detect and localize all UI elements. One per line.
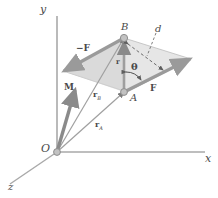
label-r-b-sub: B [97,95,101,101]
label-distance-d: d [155,24,161,34]
vector-diagram-figure: y x z O A B −F F M r rB rA d θ [0,0,218,198]
label-force-f: F [150,84,156,93]
label-vector-r-b: rB [93,90,101,101]
z-axis [10,152,57,184]
node-point-a [121,89,128,96]
label-moment-m: M [64,83,74,92]
axis-label-x: x [205,153,211,164]
label-point-b: B [121,22,128,32]
label-angle-theta: θ [131,62,138,72]
vector-m [57,90,75,152]
node-origin [54,149,61,156]
label-vector-r-a: rA [95,120,103,131]
label-vector-r: r [116,58,120,65]
label-r-a-sub: A [99,125,103,131]
axis-label-z: z [8,182,13,192]
axis-label-y: y [40,4,46,15]
label-force-neg-f: −F [76,44,90,53]
node-point-b [120,34,127,41]
label-point-a: A [130,93,137,103]
diagram-canvas [0,0,218,198]
label-origin: O [41,143,50,154]
